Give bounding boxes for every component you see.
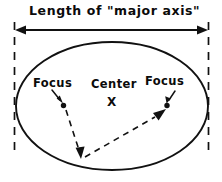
focal-radius-left-arrowhead-icon (76, 146, 85, 159)
focal-radius-right-arrowhead-icon (153, 109, 166, 120)
measure-arrowhead-right-icon (197, 26, 208, 35)
focus-right-point (164, 103, 169, 108)
ellipse-diagram-figure: Length of "major axis" Focus Center X Fo… (0, 0, 222, 182)
focus-left-label: Focus (33, 78, 72, 90)
focal-radius-left-dashed-line (66, 110, 79, 150)
focus-left-point (61, 103, 66, 108)
center-label: Center (91, 79, 137, 91)
focus-right-label: Focus (145, 76, 184, 88)
focal-radius-right-dashed-line (85, 117, 155, 157)
major-axis-title-label: Length of "major axis" (29, 5, 200, 18)
center-mark-label: X (107, 96, 117, 108)
measure-arrowhead-left-icon (15, 26, 26, 35)
diagram-canvas (0, 0, 222, 182)
